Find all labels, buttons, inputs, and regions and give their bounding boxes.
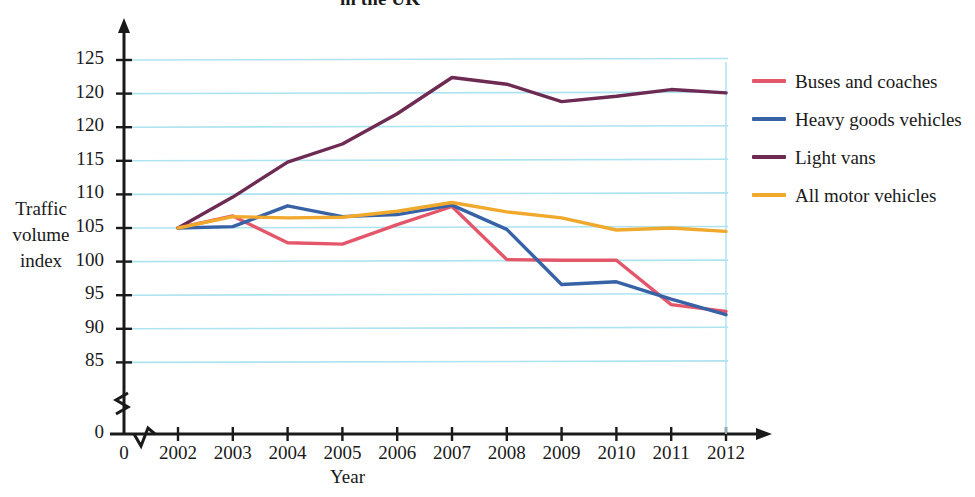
y-tick-label: 95 — [56, 282, 104, 304]
y-axis-break-icon — [116, 393, 128, 414]
chart-legend: Buses and coachesHeavy goods vehiclesLig… — [752, 62, 975, 214]
legend-item-label: Heavy goods vehicles — [795, 110, 962, 129]
y-tick-label: 90 — [56, 316, 104, 338]
x-tick-label: 2004 — [258, 442, 318, 464]
y-tick-label: 120 — [56, 114, 104, 136]
x-tick-label: 2010 — [586, 442, 646, 464]
gridline — [128, 294, 728, 296]
y-tick-label: 120 — [56, 81, 104, 103]
x-tick-label: 2005 — [312, 442, 372, 464]
x-axis-arrow — [756, 428, 772, 440]
legend-color-swatch — [752, 155, 786, 159]
x-tick-label: 2012 — [696, 442, 756, 464]
legend-color-swatch — [752, 193, 786, 197]
legend-item[interactable]: Buses and coaches — [752, 62, 975, 100]
y-tick-label: 85 — [56, 349, 104, 371]
y-tick-label: 100 — [56, 249, 104, 271]
gridline — [128, 327, 728, 329]
legend-item[interactable]: Heavy goods vehicles — [752, 100, 975, 138]
legend-item-label: All motor vehicles — [795, 186, 936, 205]
y-tick-label: 110 — [56, 181, 104, 203]
y-tick-label: 125 — [56, 47, 104, 69]
legend-item-label: Light vans — [795, 148, 876, 167]
legend-item-label: Buses and coaches — [795, 72, 937, 91]
legend-item[interactable]: All motor vehicles — [752, 176, 975, 214]
x-tick-label: 2011 — [641, 442, 701, 464]
y-tick-label: 105 — [56, 215, 104, 237]
gridline — [128, 126, 728, 128]
x-tick-label: 2007 — [422, 442, 482, 464]
x-tick-label: 2002 — [148, 442, 208, 464]
gridline — [128, 193, 728, 195]
gridline — [128, 260, 728, 262]
gridline — [128, 159, 728, 161]
data-series-group — [178, 77, 726, 314]
y-tick-label: 0 — [56, 421, 104, 443]
x-tick-label: 2008 — [477, 442, 537, 464]
x-tick-label: 2009 — [532, 442, 592, 464]
legend-color-swatch — [752, 117, 786, 121]
y-axis-arrow — [118, 18, 130, 33]
legend-color-swatch — [752, 79, 786, 83]
legend-item[interactable]: Light vans — [752, 138, 975, 176]
y-tick-label: 115 — [56, 148, 104, 170]
traffic-volume-line-chart: in the UK Traffic volume index Year 1251… — [0, 0, 975, 497]
gridline — [128, 59, 728, 61]
x-tick-label: 2006 — [367, 442, 427, 464]
x-tick-label: 0 — [94, 442, 154, 464]
gridline — [128, 361, 728, 363]
x-tick-label: 2003 — [203, 442, 263, 464]
